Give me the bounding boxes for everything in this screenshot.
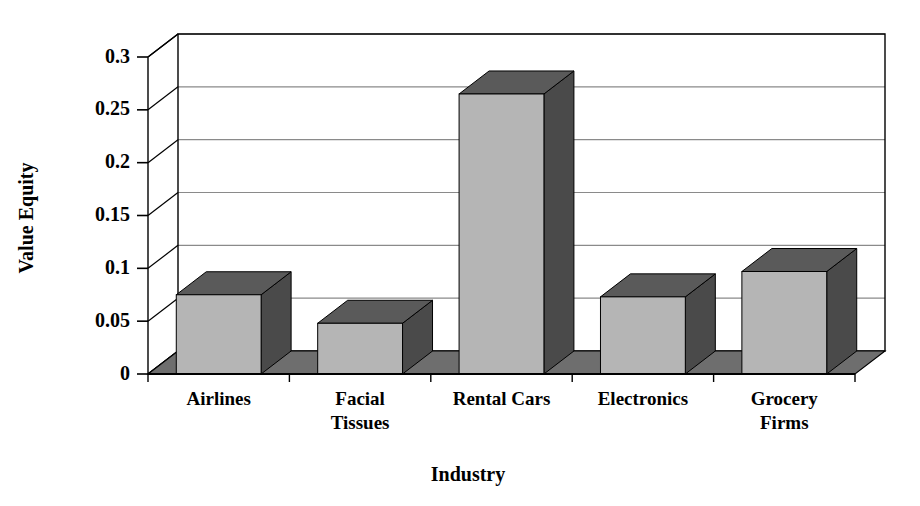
bar-side-face xyxy=(544,71,574,374)
bar-rental-cars xyxy=(459,71,574,374)
category-label: Tissues xyxy=(331,412,390,433)
y-axis-title: Value Equity xyxy=(15,163,38,274)
x-axis-title: Industry xyxy=(431,463,505,486)
category-label: Rental Cars xyxy=(453,388,551,409)
y-tick-label: 0.2 xyxy=(105,150,130,172)
bar-facial-tissues xyxy=(318,300,433,374)
y-tick-label: 0.1 xyxy=(105,256,130,278)
category-label: Grocery xyxy=(751,388,819,409)
chart-container: 00.050.10.150.20.250.3 AirlinesFacialTis… xyxy=(0,0,920,506)
category-label: Electronics xyxy=(598,388,688,409)
bar-airlines xyxy=(176,272,291,374)
bar-front-face xyxy=(742,272,827,374)
value-equity-3d-bar-chart: 00.050.10.150.20.250.3 AirlinesFacialTis… xyxy=(0,0,920,506)
y-tick-label: 0.25 xyxy=(95,97,130,119)
category-label: Facial xyxy=(335,388,385,409)
y-tick-label: 0.3 xyxy=(105,45,130,67)
bar-front-face xyxy=(318,323,403,374)
y-tick-label: 0 xyxy=(120,362,130,384)
y-tick-label: 0.15 xyxy=(95,203,130,225)
bar-front-face xyxy=(176,295,261,374)
bar-front-face xyxy=(459,94,544,374)
category-label: Firms xyxy=(760,412,809,433)
y-tick-label: 0.05 xyxy=(95,309,130,331)
bar-front-face xyxy=(600,297,685,374)
bar-grocery-firms xyxy=(742,249,857,374)
category-label: Airlines xyxy=(187,388,251,409)
bar-electronics xyxy=(600,274,715,374)
